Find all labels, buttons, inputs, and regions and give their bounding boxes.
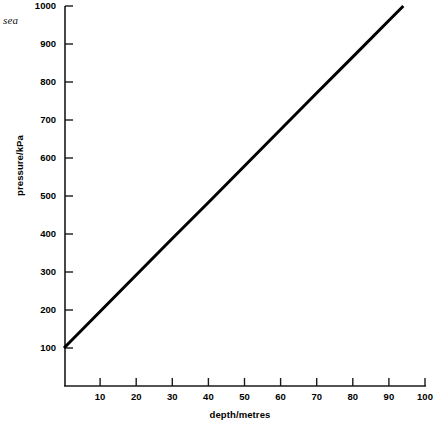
axes-group (64, 6, 426, 386)
data-series-group (64, 6, 403, 348)
chart-figure: sea pressure/kPa depth/metres 1002003004… (0, 0, 437, 424)
y-tick-group (65, 6, 73, 348)
plot-area (0, 0, 437, 424)
x-tick-group (100, 378, 425, 386)
data-line (64, 6, 403, 348)
